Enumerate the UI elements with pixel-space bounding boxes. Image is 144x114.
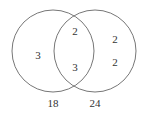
left-set-label: 18: [48, 97, 60, 109]
left-set-circle: [12, 10, 94, 92]
right-only-value-bottom: 2: [112, 56, 118, 68]
right-set-label: 24: [90, 97, 102, 109]
intersection-value-top: 2: [72, 25, 78, 37]
right-only-value-top: 2: [112, 33, 118, 45]
venn-diagram: 3 2 3 2 2 18 24: [0, 0, 144, 114]
right-set-circle: [54, 10, 136, 92]
left-only-value: 3: [35, 49, 41, 61]
intersection-value-bottom: 3: [72, 61, 78, 73]
